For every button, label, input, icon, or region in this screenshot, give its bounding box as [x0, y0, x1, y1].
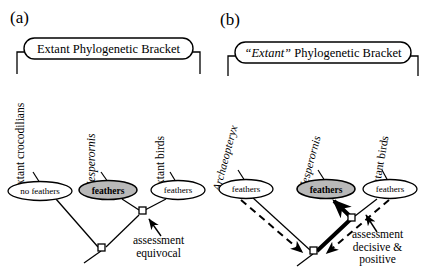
- bracket-label-a: Extant Phylogenetic Bracket: [37, 42, 181, 56]
- state-label-a-2: feathers: [164, 185, 193, 195]
- dashed-arrow-right-b: [327, 200, 389, 253]
- bracket-label-b: “Extant” Phylogenetic Bracket: [245, 46, 402, 60]
- state-ellipse-b-2: feathers: [363, 180, 417, 199]
- basal-node-a: [98, 244, 105, 251]
- dashed-arrow-left-b: [241, 200, 302, 252]
- bracket-label-b-italic: “Extant”: [245, 46, 292, 60]
- terminal-stubs-b: [238, 170, 388, 181]
- bracket-label-b-rest: Phylogenetic Bracket: [294, 46, 402, 60]
- state-ellipse-a-1: feathers: [79, 181, 137, 200]
- state-label-a-0: no feathers: [20, 186, 60, 196]
- panel-a-graphic: Extant Phylogenetic Bracket: [8, 38, 205, 263]
- state-label-b-1: feathers: [310, 185, 343, 195]
- assessment-arrow-b: [366, 215, 377, 232]
- tree-branches-b: [252, 197, 377, 266]
- thick-arrow-b: [317, 201, 352, 251]
- internal-node-b: [348, 214, 355, 221]
- state-label-b-2: feathers: [376, 184, 405, 194]
- panel-b-graphic: “Extant” Phylogenetic Bracket: [219, 42, 418, 266]
- figure-root: (a) (b) extant crocodilians Hesperornis …: [0, 0, 431, 276]
- internal-node-a: [139, 207, 146, 214]
- tree-branches-a: [56, 199, 166, 263]
- state-label-b-0: feathers: [232, 184, 261, 194]
- basal-node-b: [310, 247, 317, 254]
- assessment-arrow-a: [149, 219, 161, 236]
- state-ellipse-a-0: no feathers: [8, 182, 72, 201]
- state-ellipse-b-1: feathers: [297, 180, 355, 199]
- thick-inference-arrows-b: [317, 201, 352, 251]
- state-ellipse-a-2: feathers: [151, 181, 205, 200]
- state-ellipse-b-0: feathers: [219, 180, 273, 199]
- state-label-a-1: feathers: [92, 186, 125, 196]
- phylogeny-diagram: Extant Phylogenetic Bracket: [0, 0, 431, 276]
